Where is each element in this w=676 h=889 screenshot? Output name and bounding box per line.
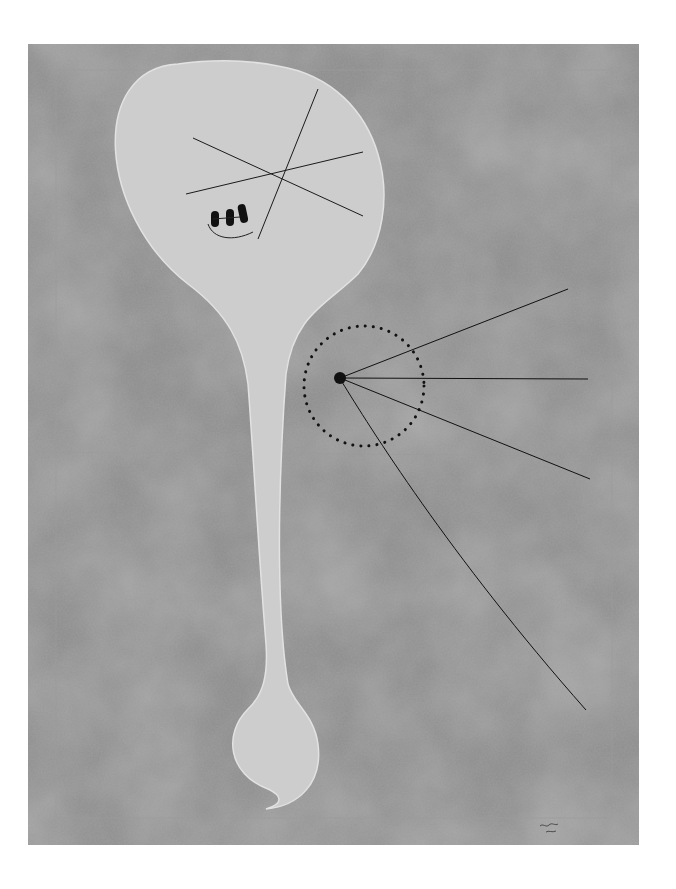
painting: [28, 44, 639, 845]
